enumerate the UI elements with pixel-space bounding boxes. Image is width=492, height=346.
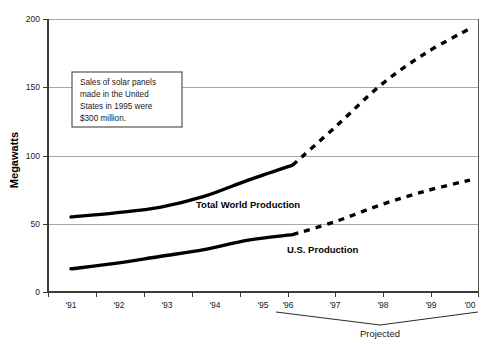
x-tick-label-97: '97 [329, 300, 340, 310]
y-tick-label-50: 50 [31, 219, 41, 229]
x-tick-label-96: '96 [282, 300, 293, 310]
solar-production-chart: 200 150 100 50 0 Megawatts '91 '92 '93 '… [0, 0, 492, 346]
callout-line-4: $300 million. [80, 114, 126, 123]
y-tick-label-100: 100 [26, 151, 40, 161]
x-tick-label-91: '91 [65, 300, 76, 310]
callout-line-2: made in the United [80, 90, 149, 99]
x-tick-label-93: '93 [161, 300, 172, 310]
series-label-total-world-production: Total World Production [196, 199, 300, 210]
projected-bracket: Projected [276, 312, 478, 339]
y-tick-label-150: 150 [26, 82, 40, 92]
x-tick-label-94: '94 [209, 300, 220, 310]
x-tick-label-00: '00 [464, 300, 475, 310]
x-tick-label-98: '98 [377, 300, 388, 310]
series-label-us-production: U.S. Production [287, 244, 358, 255]
projected-bracket-label: Projected [360, 328, 400, 339]
x-tick-label-95: '95 [257, 300, 268, 310]
x-tick-marks [48, 292, 478, 297]
y-tick-label-0: 0 [35, 287, 40, 297]
callout-line-1: Sales of solar panels [80, 78, 156, 87]
callout-annotation: Sales of solar panels made in the United… [72, 72, 182, 127]
y-tick-marks [43, 19, 48, 292]
y-tick-label-200: 200 [26, 14, 40, 24]
x-tick-label-99: '99 [425, 300, 436, 310]
chart-canvas: 200 150 100 50 0 Megawatts '91 '92 '93 '… [0, 0, 492, 346]
x-tick-label-92: '92 [113, 300, 124, 310]
callout-line-3: States in 1995 were [80, 102, 153, 111]
y-axis-title: Megawatts [8, 132, 20, 188]
projected-bracket-path [276, 312, 478, 325]
